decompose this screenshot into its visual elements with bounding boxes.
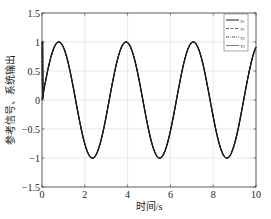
x-tick-label: 0: [40, 189, 45, 200]
y-tick-label: 1.5: [28, 8, 41, 19]
y-tick-label: −0.5: [22, 124, 40, 135]
y-tick-label: −1: [29, 153, 40, 164]
legend: yry1y2y3: [224, 14, 248, 51]
x-tick-label: 2: [82, 189, 87, 200]
line-chart: 0246810−1.5−1−0.500.511.5 yry1y2y3 时间/s …: [0, 0, 271, 219]
data-series: [42, 41, 256, 158]
x-axis-label: 时间/s: [136, 200, 163, 212]
y-tick-label: 0: [35, 95, 40, 106]
x-tick-label: 4: [125, 189, 130, 200]
x-tick-label: 6: [168, 189, 173, 200]
y-tick-label: 0.5: [28, 66, 41, 77]
x-tick-label: 8: [211, 189, 216, 200]
y-tick-label: −1.5: [22, 182, 40, 193]
y-tick-label: 1: [35, 37, 40, 48]
y-axis-label: 参考信号、系统输出: [4, 55, 16, 145]
x-tick-label: 10: [251, 189, 261, 200]
